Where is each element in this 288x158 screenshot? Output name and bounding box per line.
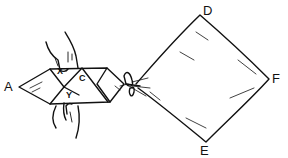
label-c: C (79, 74, 86, 83)
label-a: A (4, 80, 13, 93)
diagram-canvas: A X C Y D F E (0, 0, 288, 158)
bottom-hand (53, 103, 79, 138)
square-cloth-right (136, 15, 269, 142)
label-f: F (272, 72, 280, 85)
label-x: X (57, 67, 63, 76)
label-d: D (203, 4, 212, 17)
label-e: E (200, 144, 209, 157)
furoshiki-drawing (0, 0, 288, 158)
label-y: Y (66, 91, 72, 100)
